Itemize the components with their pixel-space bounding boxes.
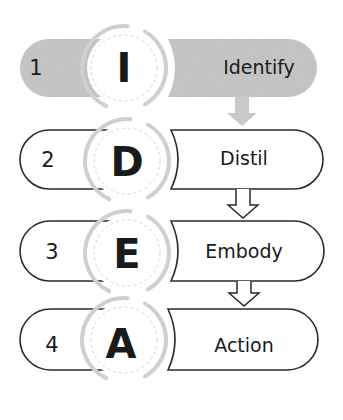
idea-diagram: 1 I Identify 2 D Distil 3 E Embody 4 A A…: [0, 0, 343, 420]
step-number-4: 4: [45, 333, 58, 357]
step-number-3: 3: [45, 240, 58, 264]
step-letter-1: I: [117, 45, 132, 91]
step-label-embody: Embody: [205, 240, 283, 262]
step-label-action: Action: [214, 334, 274, 356]
step-label-identify: Identify: [223, 56, 295, 78]
step-letter-4: A: [106, 321, 137, 367]
arrow-down-icon-1: [227, 97, 257, 126]
step-label-distil: Distil: [220, 147, 268, 169]
step-number-1: 1: [29, 56, 42, 80]
arrow-down-icon-3: [229, 281, 259, 306]
step-letter-2: D: [110, 139, 143, 185]
step-letter-3: E: [113, 231, 140, 277]
step-number-2: 2: [41, 148, 54, 172]
arrow-down-icon-2: [228, 189, 258, 218]
